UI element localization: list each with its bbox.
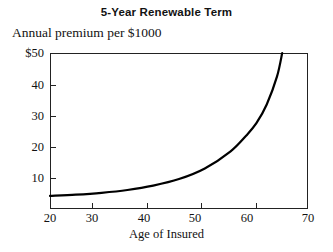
x-tick-label-60: 60 [227, 211, 267, 226]
chart-figure: 5-Year Renewable Term Annual premium per… [0, 0, 333, 252]
x-tick-label-40: 40 [124, 211, 164, 226]
x-tick-label-70: 70 [288, 211, 328, 226]
y-axis-title: Annual premium per $1000 [12, 25, 162, 41]
y-tick-mark-30 [50, 116, 56, 117]
chart-title: 5-Year Renewable Term [0, 6, 333, 18]
x-tick-mark-50 [201, 203, 202, 209]
y-tick-label-20: 20 [0, 140, 44, 155]
x-tick-label-30: 30 [72, 211, 112, 226]
x-tick-mark-30 [92, 203, 93, 209]
x-axis-title: Age of Insured [0, 227, 333, 242]
y-tick-label-10: 10 [0, 171, 44, 186]
x-tick-label-50: 50 [175, 211, 215, 226]
premium-curve [50, 53, 308, 209]
x-tick-mark-40 [147, 203, 148, 209]
premium-curve-path [50, 53, 282, 196]
y-tick-mark-20 [50, 147, 56, 148]
y-tick-mark-40 [50, 85, 56, 86]
y-tick-mark-10 [50, 178, 56, 179]
x-tick-mark-60 [256, 203, 257, 209]
x-tick-label-20: 20 [30, 211, 70, 226]
y-tick-label-40: 40 [0, 78, 44, 93]
y-tick-label-50: $50 [0, 46, 44, 61]
y-tick-label-30: 30 [0, 109, 44, 124]
